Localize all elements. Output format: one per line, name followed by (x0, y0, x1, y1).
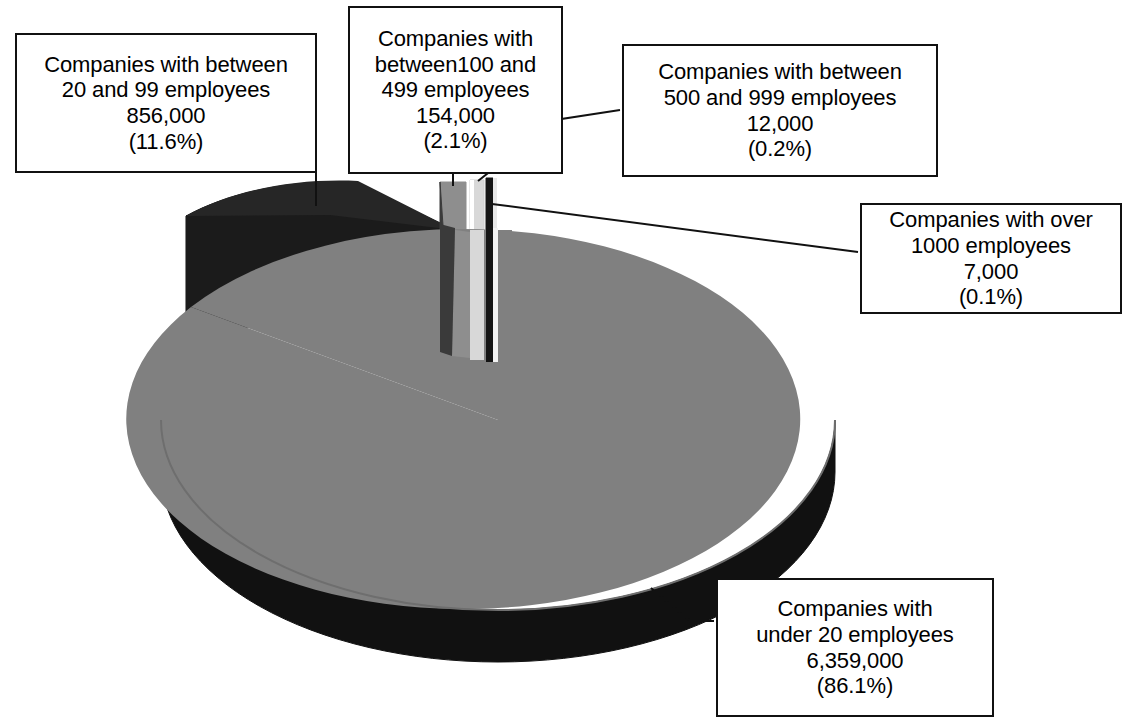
callout-companies-under-20[interactable]: Companies with under 20 employees 6,359,… (716, 578, 994, 717)
callout-companies-500-to-999[interactable]: Companies with between 500 and 999 emplo… (622, 44, 938, 177)
leader-line-under-20 (651, 588, 714, 621)
callout-line-1: Companies with between (658, 59, 902, 85)
callout-percent: (0.2%) (748, 136, 812, 162)
callout-companies-over-1000[interactable]: Companies with over 1000 employees 7,000… (860, 203, 1122, 314)
callout-value: 7,000 (964, 259, 1019, 285)
leader-line-over-1000 (492, 204, 858, 252)
callout-companies-20-to-99[interactable]: Companies with between 20 and 99 employe… (15, 33, 317, 173)
callout-percent: (2.1%) (423, 128, 487, 154)
callout-percent: (86.1%) (817, 673, 893, 699)
callout-percent: (0.1%) (959, 284, 1023, 310)
callout-value: 856,000 (127, 103, 206, 129)
callout-value: 154,000 (416, 103, 495, 129)
callout-line-1: Companies with (378, 26, 533, 52)
callout-line-2: 1000 employees (911, 233, 1071, 259)
callout-line-1: Companies with over (889, 207, 1093, 233)
callout-line-1: Companies with between (44, 52, 288, 78)
callout-line-1: Companies with (777, 596, 932, 622)
chart-canvas: Companies with between 20 and 99 employe… (0, 0, 1126, 721)
callout-line-3: 499 employees (382, 77, 530, 103)
callout-value: 12,000 (747, 111, 814, 137)
callout-line-2: between100 and (375, 52, 536, 78)
callout-line-2: 20 and 99 employees (62, 77, 270, 103)
callout-companies-100-to-499[interactable]: Companies with between100 and 499 employ… (348, 6, 563, 174)
callout-line-2: 500 and 999 employees (664, 85, 897, 111)
callout-percent: (11.6%) (129, 129, 204, 155)
callout-value: 6,359,000 (807, 648, 904, 674)
callout-line-2: under 20 employees (756, 622, 954, 648)
